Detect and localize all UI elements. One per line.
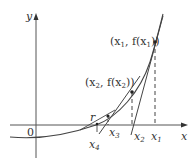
root-label: r <box>90 111 96 124</box>
newton-method-diagram: y x 0 (x1, f(x1)) (x2, f(x2)) x1 x2 x3 x… <box>0 0 195 167</box>
x-axis-arrow-icon <box>181 123 188 128</box>
x-axis-label: x <box>181 130 188 143</box>
point-label-x1: (x1, f(x1)) <box>110 35 160 49</box>
diagram-canvas: y x 0 (x1, f(x1)) (x2, f(x2)) x1 x2 x3 x… <box>0 0 195 167</box>
point-label-x2: (x2, f(x2)) <box>85 76 135 90</box>
x3-label: x3 <box>109 126 120 140</box>
x4-label: x4 <box>89 138 100 152</box>
point-x2-fx2 <box>130 90 134 94</box>
x1-label: x1 <box>151 130 162 144</box>
x2-label: x2 <box>134 130 145 144</box>
origin-label: 0 <box>27 126 34 139</box>
y-axis-label: y <box>25 10 33 23</box>
point-root <box>96 123 99 126</box>
point-x3-fx3 <box>106 114 109 117</box>
tangent-line-1 <box>131 16 163 135</box>
y-axis-arrow-icon <box>34 13 39 20</box>
